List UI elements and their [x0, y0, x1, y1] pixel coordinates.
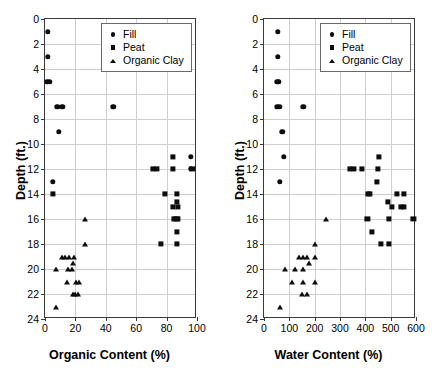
data-point-fill: [45, 54, 50, 59]
data-point-peat: [175, 191, 180, 196]
data-point-peat: [401, 191, 406, 196]
circle-marker-icon: [107, 32, 119, 37]
gridline-horizontal: [45, 94, 195, 95]
y-axis-tick: [41, 294, 45, 295]
data-point-organic-clay: [76, 279, 82, 284]
x-axis-tick-label: 200: [306, 323, 324, 334]
y-axis-tick-label: 14: [27, 189, 39, 200]
data-point-organic-clay: [312, 254, 318, 259]
y-axis-tick-label: 24: [246, 314, 258, 325]
data-point-organic-clay: [70, 260, 76, 265]
x-axis-tick-label: 100: [281, 323, 299, 334]
x-axis-tick-label: 20: [70, 323, 82, 334]
y-axis-tick: [41, 119, 45, 120]
gridline-horizontal: [45, 294, 195, 295]
data-point-fill: [277, 179, 282, 184]
data-point-organic-clay: [277, 304, 283, 309]
chart-panel-organic-content: 024681012141618202224020406080100FillPea…: [0, 0, 219, 390]
data-point-fill: [281, 154, 286, 159]
data-point-fill: [60, 104, 65, 109]
data-point-fill: [111, 104, 116, 109]
data-point-organic-clay: [312, 242, 318, 247]
data-point-peat: [411, 216, 416, 221]
y-axis-tick-label: 22: [246, 289, 258, 300]
data-point-organic-clay: [53, 267, 59, 272]
x-axis-tick-label: 60: [130, 323, 142, 334]
data-point-organic-clay: [312, 279, 318, 284]
data-point-peat: [170, 166, 175, 171]
y-axis-tick: [260, 294, 264, 295]
data-point-fill: [276, 79, 281, 84]
legend-item-label: Peat: [342, 42, 364, 53]
gridline-horizontal: [45, 194, 195, 195]
data-point-fill: [277, 104, 282, 109]
y-axis-tick: [260, 169, 264, 170]
data-point-peat: [175, 241, 180, 246]
y-axis-tick: [41, 144, 45, 145]
y-axis-tick: [260, 119, 264, 120]
data-point-fill: [50, 179, 55, 184]
legend-item-organic-clay: Organic Clay: [107, 54, 184, 67]
data-point-peat: [386, 216, 391, 221]
y-axis-tick-label: 0: [252, 14, 258, 25]
data-point-organic-clay: [323, 217, 329, 222]
y-axis-tick-label: 8: [33, 114, 39, 125]
y-axis-tick: [260, 69, 264, 70]
y-axis-tick-label: 2: [252, 39, 258, 50]
data-point-organic-clay: [282, 267, 288, 272]
y-axis-tick: [41, 44, 45, 45]
data-point-organic-clay: [292, 267, 298, 272]
y-axis-tick-label: 10: [27, 139, 39, 150]
data-point-peat: [375, 166, 380, 171]
y-axis-tick: [260, 219, 264, 220]
chart-panel-water-content: 0246810121416182022240100200300400500600…: [219, 0, 438, 390]
data-point-peat: [190, 166, 195, 171]
legend-item-label: Organic Clay: [123, 55, 184, 66]
triangle-marker-icon: [326, 59, 338, 63]
x-axis-tick: [197, 317, 198, 321]
data-point-peat: [175, 229, 180, 234]
circle-marker-icon: [326, 32, 338, 37]
data-point-peat: [175, 199, 180, 204]
y-axis-tick-label: 14: [246, 189, 258, 200]
gridline-horizontal: [45, 244, 195, 245]
x-axis-tick: [365, 317, 366, 321]
legend-item-label: Peat: [123, 42, 145, 53]
data-point-peat: [367, 191, 372, 196]
x-axis-tick-label: 40: [100, 323, 112, 334]
data-point-organic-clay: [300, 279, 306, 284]
data-point-organic-clay: [300, 267, 306, 272]
x-axis-tick-label: 600: [407, 323, 425, 334]
x-axis-title: Water Content (%): [219, 348, 438, 362]
y-axis-tick: [260, 44, 264, 45]
y-axis-tick-label: 18: [246, 239, 258, 250]
y-axis-tick: [41, 269, 45, 270]
data-point-peat: [365, 216, 370, 221]
y-axis-tick: [41, 244, 45, 245]
y-axis-tick: [260, 269, 264, 270]
x-axis-tick-label: 500: [382, 323, 400, 334]
x-axis-tick-label: 300: [331, 323, 349, 334]
x-axis-tick: [289, 317, 290, 321]
chart-legend: FillPeatOrganic Clay: [101, 23, 192, 72]
y-axis-tick-label: 6: [252, 89, 258, 100]
y-axis-tick: [41, 69, 45, 70]
y-axis-tick-label: 6: [33, 89, 39, 100]
data-point-peat: [375, 179, 380, 184]
data-point-peat: [174, 216, 179, 221]
gridline-vertical: [75, 19, 76, 317]
x-axis-tick: [136, 317, 137, 321]
y-axis-tick-label: 2: [33, 39, 39, 50]
data-point-peat: [175, 204, 180, 209]
data-point-organic-clay: [53, 304, 59, 309]
x-axis-tick: [416, 317, 417, 321]
y-axis-tick: [41, 19, 45, 20]
x-axis-tick: [340, 317, 341, 321]
y-axis-tick-label: 0: [33, 14, 39, 25]
y-axis-tick: [260, 244, 264, 245]
y-axis-tick-label: 24: [27, 314, 39, 325]
y-axis-tick-label: 20: [27, 264, 39, 275]
data-point-fill: [45, 29, 50, 34]
x-axis-tick: [264, 317, 265, 321]
y-axis-tick: [260, 194, 264, 195]
